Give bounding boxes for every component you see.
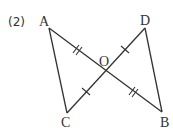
segment-AB — [49, 28, 162, 112]
point-label-O: O — [99, 54, 109, 69]
segment-CD — [67, 28, 145, 113]
point-label-A: A — [39, 14, 50, 29]
problem-number: (2) — [8, 15, 25, 29]
segment-DB — [145, 28, 162, 112]
point-label-D: D — [140, 13, 150, 28]
point-label-B: B — [160, 115, 169, 130]
geometry-diagram: (2) A D O C B — [0, 0, 173, 130]
segment-AC — [49, 28, 67, 113]
point-label-C: C — [61, 115, 70, 130]
